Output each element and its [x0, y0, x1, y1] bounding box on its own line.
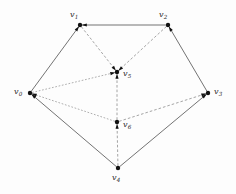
node-label-subscript-v4: 4 [117, 177, 121, 183]
edge-v4-to-v0 [32, 95, 117, 167]
node-v4[interactable] [116, 166, 120, 170]
node-label-v5: v5 [123, 70, 131, 78]
edge-v0-to-v1 [31, 27, 78, 91]
node-label-subscript-v6: 6 [128, 124, 132, 130]
node-label-base-v5: v [123, 69, 128, 78]
edge-v6-to-v0 [32, 94, 115, 122]
node-v0[interactable] [28, 91, 32, 95]
node-label-base-v1: v [70, 10, 75, 19]
arrowhead-v2-to-v1 [82, 23, 87, 26]
node-label-v3: v3 [214, 88, 222, 96]
node-label-subscript-v3: 3 [219, 91, 223, 97]
node-v3[interactable] [206, 91, 210, 95]
node-label-subscript-v2: 2 [164, 14, 168, 20]
arrowhead-v4-to-v6 [116, 124, 119, 129]
arrowhead-v0-to-v5 [110, 72, 115, 75]
graph-canvas [0, 0, 236, 194]
node-label-subscript-v1: 1 [75, 14, 79, 20]
node-label-v1: v1 [70, 11, 78, 19]
edge-v6-to-v3 [119, 94, 206, 122]
arrowhead-v1-to-v5 [112, 66, 116, 71]
arrowhead-v3-to-v2 [169, 26, 173, 31]
node-label-subscript-v5: 5 [128, 73, 132, 79]
edge-v0-to-v5 [32, 73, 115, 93]
node-label-v6: v6 [123, 121, 131, 129]
arrowheads-layer [31, 23, 207, 128]
node-label-subscript-v0: 0 [19, 91, 23, 97]
node-label-base-v6: v [123, 120, 128, 129]
node-label-base-v3: v [214, 87, 219, 96]
node-label-v2: v2 [159, 11, 167, 19]
edges-layer [31, 25, 207, 167]
node-v6[interactable] [115, 120, 119, 124]
edge-v3-to-v2 [169, 27, 207, 91]
edge-v4-to-v6 [117, 124, 118, 165]
edge-v2-to-v5 [119, 26, 167, 70]
nodes-layer [28, 23, 210, 170]
graph-figure: v0v1v2v3v4v5v6 [0, 0, 236, 194]
node-v5[interactable] [115, 70, 119, 74]
node-v1[interactable] [78, 23, 82, 27]
edge-v1-to-v5 [81, 27, 115, 70]
node-label-v0: v0 [14, 88, 22, 96]
arrowhead-v6-to-v5 [115, 74, 118, 79]
node-v2[interactable] [166, 23, 170, 27]
node-label-v4: v4 [112, 174, 120, 182]
node-label-base-v2: v [159, 10, 164, 19]
node-label-base-v0: v [14, 87, 19, 96]
edge-v4-to-v3 [120, 95, 206, 167]
node-label-base-v4: v [112, 173, 117, 182]
